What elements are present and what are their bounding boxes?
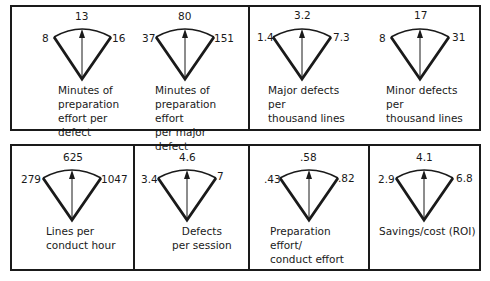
gauge-roi: 2.9 4.1 6.8 Savings/cost (ROI) xyxy=(370,146,480,270)
gauge-caption: Lines perconduct hour xyxy=(46,224,115,252)
gauge-caption: Minutes ofpreparationeffort per defect xyxy=(58,83,124,139)
gauge-caption: Savings/cost (ROI) xyxy=(379,224,476,238)
gauge-typical: 625 xyxy=(63,151,83,164)
gauge-max: 1047 xyxy=(101,173,128,186)
gauge-typical: 3.2 xyxy=(294,9,311,22)
gauge-caption: Preparation effort/conduct effort xyxy=(270,224,360,266)
gauge-min: .43 xyxy=(264,173,281,186)
gauge-prep-effort-per-defect: 8 13 16 Minutes ofpreparationeffort per … xyxy=(14,5,124,129)
gauge-caption: Defectsper session xyxy=(172,224,232,252)
gauge-typical: 17 xyxy=(414,9,427,22)
gauge-min: 8 xyxy=(42,32,49,45)
gauge-caption: Minor defects perthousand lines xyxy=(386,83,474,125)
gauge-prep-effort-per-major-defect: 37 80 151 Minutes ofpreparation effortpe… xyxy=(126,5,236,129)
gauge-typical: 4.6 xyxy=(179,151,196,164)
gauge-major-defects-per-kloc: 1.4 3.2 7.3 Major defects perthousand li… xyxy=(247,5,357,129)
gauge-sector-icon xyxy=(14,5,124,95)
gauge-typical: .58 xyxy=(300,151,317,164)
gauge-min: 279 xyxy=(21,173,41,186)
gauge-min: 1.4 xyxy=(257,31,274,44)
gauge-min: 2.9 xyxy=(378,173,395,186)
gauge-max: 7.3 xyxy=(333,31,350,44)
gauge-lines-per-conduct-hour: 279 625 1047 Lines perconduct hour xyxy=(14,146,124,270)
gauge-max: 16 xyxy=(112,32,125,45)
gauge-defects-per-session: 3.4 4.6 7 Defectsper session xyxy=(132,146,242,270)
gauge-max: 151 xyxy=(214,32,234,45)
gauge-min: 37 xyxy=(142,32,155,45)
gauge-max: 6.8 xyxy=(456,172,473,185)
gauge-min: 8 xyxy=(379,32,386,45)
gauge-max: 31 xyxy=(452,31,465,44)
gauge-max: 7 xyxy=(217,170,224,183)
gauge-typical: 13 xyxy=(75,10,88,23)
gauge-typical: 4.1 xyxy=(416,151,433,164)
gauge-caption: Major defects perthousand lines xyxy=(268,83,357,125)
gauge-min: 3.4 xyxy=(141,173,158,186)
gauge-caption: Minutes ofpreparation effortper major de… xyxy=(155,83,236,153)
gauge-minor-defects-per-kloc: 8 17 31 Minor defects perthousand lines xyxy=(364,5,474,129)
gauge-typical: 80 xyxy=(178,10,191,23)
gauge-max: .82 xyxy=(338,172,355,185)
gauge-prep-vs-conduct-effort: .43 .58 .82 Preparation effort/conduct e… xyxy=(250,146,360,270)
